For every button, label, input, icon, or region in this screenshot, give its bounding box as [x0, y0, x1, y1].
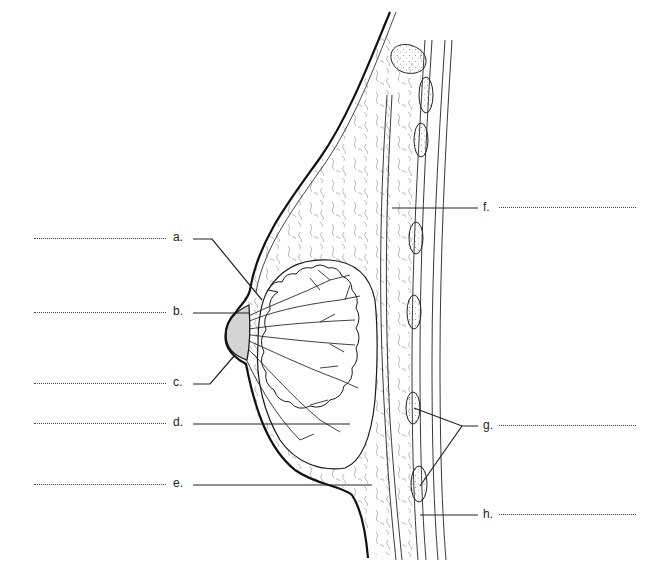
- label-f: f.: [483, 200, 490, 214]
- answer-blank-g[interactable]: [499, 425, 636, 426]
- answer-blank-h[interactable]: [499, 514, 636, 515]
- label-e: e.: [173, 476, 183, 490]
- answer-blank-d[interactable]: [34, 423, 166, 424]
- label-a: a.: [173, 230, 183, 244]
- answer-blank-a[interactable]: [34, 238, 166, 239]
- breast-anatomy-diagram: [0, 0, 671, 565]
- answer-blank-e[interactable]: [34, 484, 166, 485]
- label-c: c.: [173, 375, 182, 389]
- label-h: h.: [483, 507, 493, 521]
- label-b: b.: [173, 304, 183, 318]
- answer-blank-b[interactable]: [34, 312, 166, 313]
- answer-blank-c[interactable]: [34, 383, 166, 384]
- label-d: d.: [173, 415, 183, 429]
- answer-blank-f[interactable]: [499, 207, 636, 208]
- label-g: g.: [483, 418, 493, 432]
